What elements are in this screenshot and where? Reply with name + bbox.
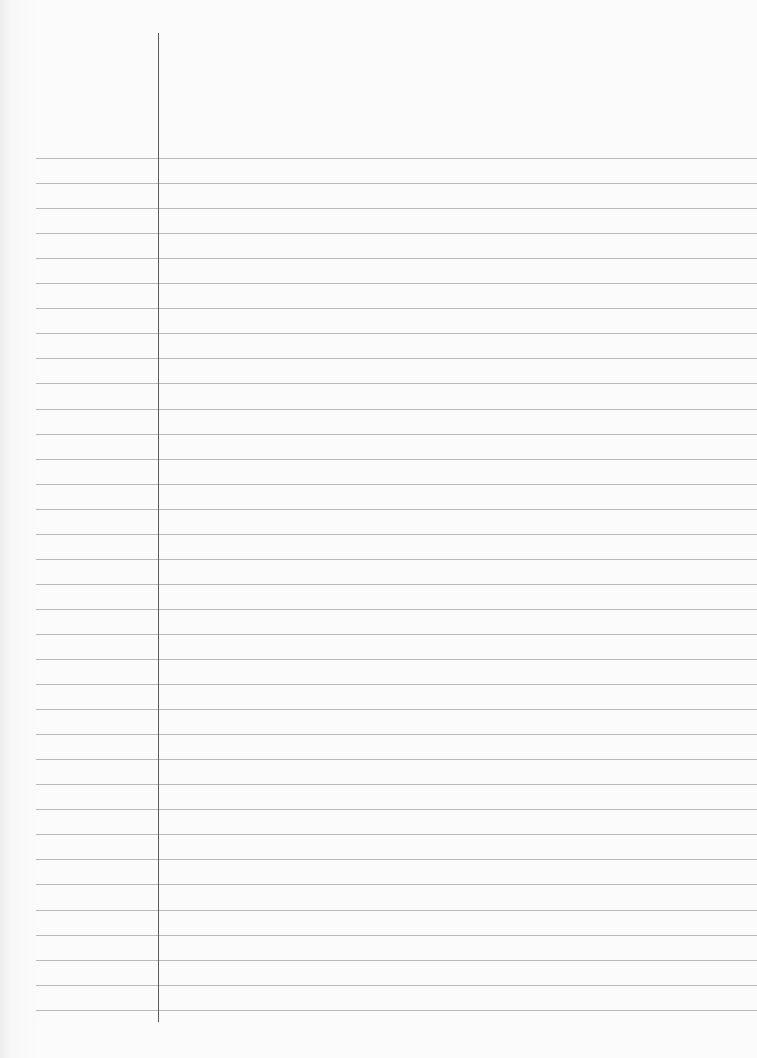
margin-line — [158, 33, 159, 1022]
ruled-line — [36, 383, 757, 384]
ruled-line — [36, 809, 757, 810]
ruled-line — [36, 935, 757, 936]
ruled-line — [36, 434, 757, 435]
ruled-line — [36, 1010, 757, 1011]
ruled-line — [36, 910, 757, 911]
ruled-line — [36, 584, 757, 585]
ruled-line — [36, 559, 757, 560]
ruled-line — [36, 834, 757, 835]
ruled-line — [36, 158, 757, 159]
ruled-line — [36, 609, 757, 610]
ruled-line — [36, 358, 757, 359]
ruled-line — [36, 283, 757, 284]
ruled-line — [36, 509, 757, 510]
ruled-line — [36, 534, 757, 535]
ruled-line — [36, 784, 757, 785]
ruled-line — [36, 884, 757, 885]
ruled-line — [36, 183, 757, 184]
ruled-line — [36, 233, 757, 234]
ruled-line — [36, 459, 757, 460]
ruled-line — [36, 634, 757, 635]
notebook-page — [0, 0, 757, 1058]
ruled-line — [36, 960, 757, 961]
ruled-line — [36, 734, 757, 735]
ruled-line — [36, 659, 757, 660]
ruled-line — [36, 308, 757, 309]
ruled-line — [36, 208, 757, 209]
ruled-line — [36, 709, 757, 710]
ruled-line — [36, 484, 757, 485]
ruled-line — [36, 859, 757, 860]
ruled-line — [36, 985, 757, 986]
ruled-line — [36, 333, 757, 334]
ruled-line — [36, 684, 757, 685]
ruled-line — [36, 258, 757, 259]
ruled-line — [36, 409, 757, 410]
ruled-line — [36, 759, 757, 760]
